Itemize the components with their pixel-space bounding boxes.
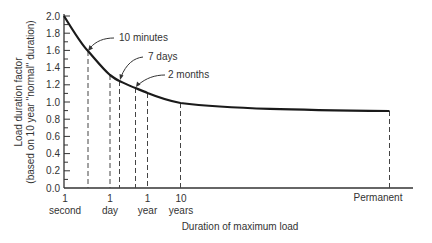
y-tick-label: 1.0	[46, 97, 60, 108]
y-axis-sublabel: (based on 10 year "normal" duration)	[25, 20, 36, 183]
annotation-7-days: 7 days	[148, 51, 177, 62]
y-tick-label: 0.0	[46, 183, 60, 194]
load-duration-chart: 0.0 0.2 0.4 0.6 0.8 1.0 1.2 1.4 1.6 1.8 …	[0, 0, 432, 243]
annotation-2-months: 2 months	[168, 69, 209, 80]
y-tick-label: 1.2	[46, 79, 60, 90]
y-tick-label: 0.2	[46, 165, 60, 176]
x-tick-bottom: second	[49, 205, 81, 216]
y-tick-label: 0.6	[46, 131, 60, 142]
arrow-10-minutes	[90, 38, 114, 48]
y-tick-label: 2.0	[46, 11, 60, 22]
x-tick-bottom: years	[169, 205, 193, 216]
x-tick-top: 1	[145, 193, 151, 204]
x-tick-top: 1	[107, 193, 113, 204]
load-duration-curve	[64, 16, 390, 111]
arrow-heads	[88, 45, 141, 87]
x-tick-top: 10	[175, 193, 187, 204]
x-tick-bottom: day	[102, 205, 118, 216]
y-tick-label: 0.4	[46, 148, 60, 159]
x-tick-labels: 1 second 1 day 1 year 10 years Permanent	[49, 192, 403, 216]
arrowhead-icon	[136, 82, 141, 88]
x-axis-label: Duration of maximum load	[182, 221, 299, 232]
annotation-10-minutes: 10 minutes	[119, 32, 168, 43]
x-tick-bottom: year	[138, 205, 158, 216]
y-tick-label: 1.8	[46, 28, 60, 39]
arrowhead-icon	[120, 74, 124, 80]
y-tick-label: 1.6	[46, 45, 60, 56]
y-ticks	[64, 16, 70, 179]
y-tick-labels: 0.0 0.2 0.4 0.6 0.8 1.0 1.2 1.4 1.6 1.8 …	[46, 11, 60, 194]
y-tick-label: 0.8	[46, 114, 60, 125]
arrow-2-months	[138, 75, 165, 85]
y-tick-label: 1.4	[46, 62, 60, 73]
arrow-7-days	[121, 57, 143, 77]
y-axis-label: Load duration factor	[13, 57, 24, 147]
x-tick-bottom: Permanent	[354, 192, 403, 203]
drop-lines	[88, 51, 390, 188]
x-tick-top: 1	[62, 193, 68, 204]
